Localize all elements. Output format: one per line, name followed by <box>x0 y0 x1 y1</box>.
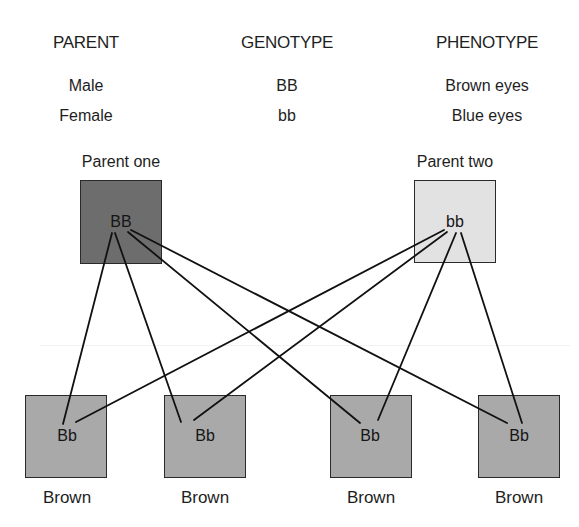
offspring-2-genotype: Bb <box>195 427 215 445</box>
parent-one-label: Parent one <box>82 153 160 171</box>
header-parent: PARENT <box>53 33 119 53</box>
row-female-genotype: bb <box>278 107 296 125</box>
row-female-phenotype: Blue eyes <box>452 107 522 125</box>
row-male-phenotype: Brown eyes <box>445 77 529 95</box>
offspring-2-phenotype: Brown <box>181 488 229 508</box>
offspring-3-phenotype: Brown <box>347 488 395 508</box>
line-p2-c2 <box>194 232 447 420</box>
parent-two-label: Parent two <box>417 153 493 171</box>
offspring-1-genotype: Bb <box>57 427 77 445</box>
row-female-parent: Female <box>59 107 112 125</box>
parent-one-genotype: BB <box>110 213 131 231</box>
row-male-genotype: BB <box>276 77 297 95</box>
offspring-3-genotype: Bb <box>360 427 380 445</box>
header-genotype: GENOTYPE <box>241 33 333 53</box>
offspring-1-phenotype: Brown <box>43 488 91 508</box>
offspring-4-genotype: Bb <box>509 427 529 445</box>
parent-two-genotype: bb <box>446 213 464 231</box>
header-phenotype: PHENOTYPE <box>436 33 538 53</box>
offspring-4-phenotype: Brown <box>495 488 543 508</box>
scan-artifact-line <box>40 345 570 346</box>
row-male-parent: Male <box>69 77 104 95</box>
